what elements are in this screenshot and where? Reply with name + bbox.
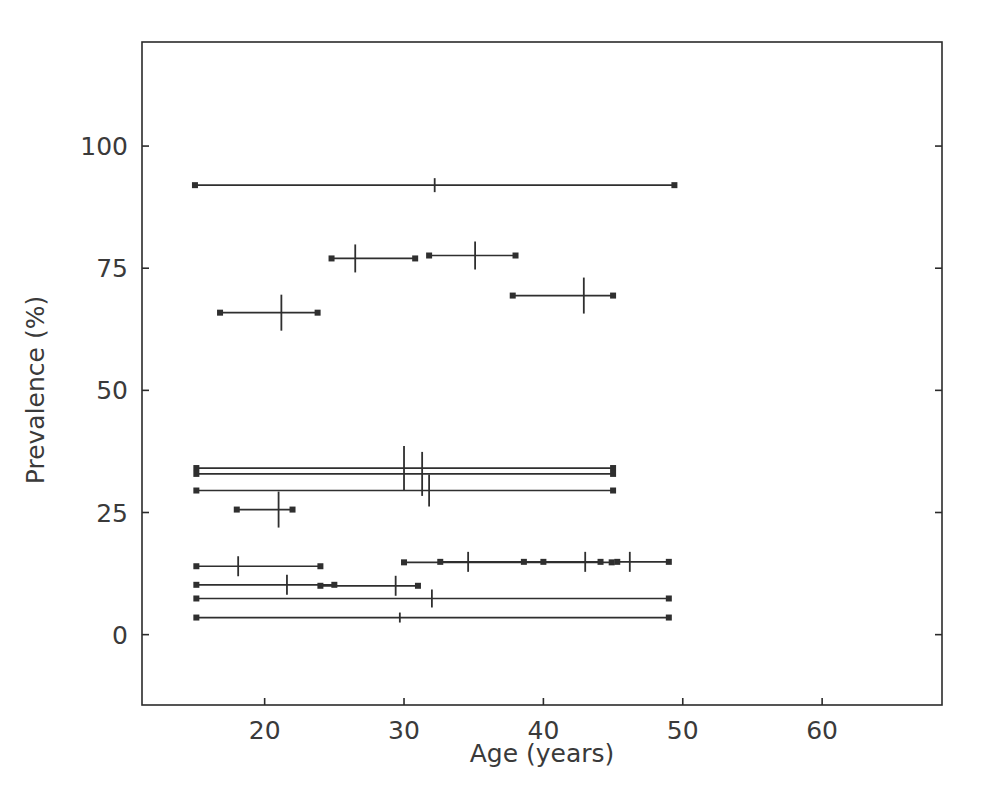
- x-axis-label: Age (years): [470, 739, 615, 768]
- interval-endpoint-marker: [521, 559, 527, 565]
- interval-endpoint-marker: [415, 583, 421, 589]
- y-tick-label: 75: [96, 254, 128, 283]
- interval-endpoint-marker: [315, 310, 321, 316]
- y-tick-label: 25: [96, 499, 128, 528]
- interval-endpoint-marker: [510, 293, 516, 299]
- interval-endpoint-marker: [329, 255, 335, 261]
- x-tick-label: 30: [388, 716, 420, 745]
- figure-background: [0, 0, 989, 798]
- y-tick-label: 100: [80, 132, 128, 161]
- interval-endpoint-marker: [666, 595, 672, 601]
- interval-endpoint-marker: [193, 595, 199, 601]
- scatter-plot-canvas: 2030405060 0255075100 Age (years) Preval…: [0, 0, 989, 798]
- interval-endpoint-marker: [290, 507, 296, 513]
- interval-endpoint-marker: [193, 615, 199, 621]
- x-tick-label: 50: [667, 716, 699, 745]
- interval-endpoint-marker: [666, 615, 672, 621]
- x-tick-label: 20: [249, 716, 281, 745]
- x-tick-label: 60: [806, 716, 838, 745]
- y-tick-label: 0: [112, 621, 128, 650]
- interval-endpoint-marker: [610, 471, 616, 477]
- interval-endpoint-marker: [426, 253, 432, 259]
- interval-endpoint-marker: [437, 559, 443, 565]
- interval-endpoint-marker: [234, 507, 240, 513]
- interval-endpoint-marker: [192, 182, 198, 188]
- interval-endpoint-marker: [317, 583, 323, 589]
- interval-endpoint-marker: [412, 255, 418, 261]
- interval-endpoint-marker: [671, 182, 677, 188]
- interval-endpoint-marker: [193, 471, 199, 477]
- interval-endpoint-marker: [193, 582, 199, 588]
- interval-endpoint-marker: [217, 310, 223, 316]
- interval-endpoint-marker: [331, 582, 337, 588]
- interval-endpoint-marker: [193, 488, 199, 494]
- interval-endpoint-marker: [610, 293, 616, 299]
- interval-endpoint-marker: [193, 563, 199, 569]
- y-tick-label: 50: [96, 376, 128, 405]
- y-axis-label: Prevalence (%): [21, 296, 50, 484]
- interval-endpoint-marker: [513, 253, 519, 259]
- interval-endpoint-marker: [598, 559, 604, 565]
- interval-endpoint-marker: [614, 559, 620, 565]
- prevalence-by-age-figure: 2030405060 0255075100 Age (years) Preval…: [0, 0, 989, 798]
- interval-endpoint-marker: [193, 465, 199, 471]
- interval-endpoint-marker: [610, 488, 616, 494]
- interval-endpoint-marker: [609, 559, 615, 565]
- interval-endpoint-marker: [317, 563, 323, 569]
- interval-endpoint-marker: [610, 465, 616, 471]
- interval-endpoint-marker: [401, 559, 407, 565]
- interval-endpoint-marker: [666, 559, 672, 565]
